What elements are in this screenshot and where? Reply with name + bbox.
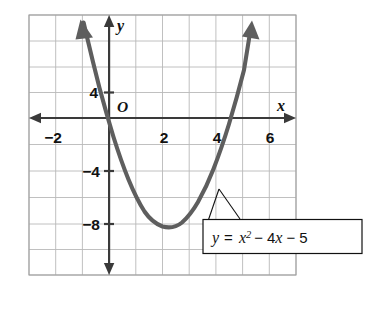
x-tick-label-4: 4 (213, 129, 222, 146)
callout-leader-line-1 (207, 189, 219, 224)
y-tick-label-4: 4 (89, 84, 98, 101)
x-tick-label-6: 6 (266, 129, 275, 146)
x-tick-label-2: 2 (160, 129, 169, 146)
y-tick-label-neg8: −8 (82, 216, 100, 233)
y-tick-label-neg4: −4 (82, 163, 100, 180)
x-tick-label-neg2: −2 (44, 129, 62, 146)
curve-arrow-right (242, 21, 260, 40)
x-axis-arrow-left (29, 113, 41, 123)
x-axis-label: x (276, 97, 285, 114)
equation-callout: y=x2−4x−5 (203, 189, 362, 254)
axis-tick-labels: −2 2 4 6 4 −4 −8 (44, 84, 275, 233)
y-axis-label: y (115, 17, 125, 35)
callout-leader-line-2 (219, 189, 240, 219)
equation-text: y=x2−4x−5 (210, 229, 308, 247)
y-axis (104, 15, 114, 275)
y-axis-arrow-down (104, 263, 114, 275)
parabola-graph-figure: −2 2 4 6 4 −4 −8 O x y y=x2−4x−5 (0, 0, 389, 312)
y-axis-arrow-up (104, 15, 114, 27)
origin-label: O (117, 98, 128, 115)
x-axis-arrow-right (284, 113, 296, 123)
